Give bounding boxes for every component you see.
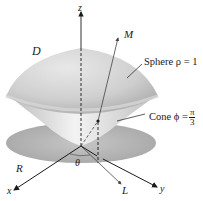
ray-l-label: L: [122, 185, 128, 196]
region-d-label: D: [32, 45, 41, 57]
region-r-label: R: [16, 163, 23, 174]
point-on-ray: [96, 119, 99, 122]
cone-fraction-denominator: 3: [189, 118, 196, 127]
x-axis-label: x: [7, 186, 11, 196]
spherical-coordinates-diagram: [0, 0, 203, 201]
ray-m-label: M: [124, 29, 133, 40]
z-axis-label: z: [78, 3, 82, 13]
sphere-label: Sphere ρ = 1: [144, 57, 197, 68]
y-axis: [103, 159, 157, 187]
cone-label: Cone ϕ =π3: [149, 108, 195, 127]
cone-fraction: π3: [189, 108, 196, 127]
cone-label-prefix: Cone ϕ =: [149, 111, 188, 122]
theta-label: θ: [75, 158, 80, 168]
y-axis-label: y: [160, 184, 164, 194]
